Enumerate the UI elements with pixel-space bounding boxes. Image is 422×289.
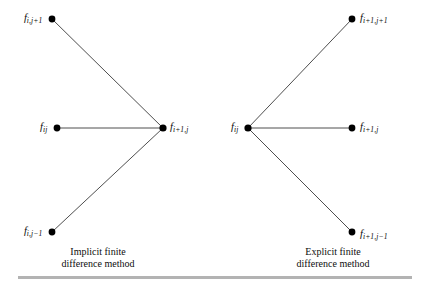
node-f-ip1-j-right [349,125,356,132]
edge-fi-jp1-to-fip1-j [52,19,163,128]
label-f-ip1-jp1: fi+1,j+1 [360,13,388,24]
label-subscript: i+1,j [363,125,379,134]
caption-implicit-method: Implicit finite difference method [48,246,148,269]
label-subscript: i,j+1 [27,16,43,25]
edge-fij-to-fip1-jp1 [248,19,352,128]
label-f-i-jp1: fi,j+1 [24,13,45,24]
caption-line-1: Explicit finite [283,246,383,258]
implicit-panel-edges [52,19,163,232]
edge-fi-jm1-to-fip1-j [52,128,163,232]
implicit-panel-nodes [49,16,167,236]
node-f-ip1-jm1 [349,229,356,236]
node-f-ip1-j [159,124,166,131]
label-subscript: i+1,j+1 [363,16,388,25]
node-f-i-jm1 [49,229,56,236]
explicit-panel-nodes [244,16,355,236]
label-f-i-jm1: fi,j−1 [24,226,45,237]
label-f-ij-right: fij [231,122,241,133]
node-f-ij-right [244,124,251,131]
label-subscript: i,j−1 [27,229,43,238]
label-f-ij-left: fij [40,122,50,133]
node-f-i-jp1 [49,16,56,23]
label-subscript: i+1,j [173,125,189,134]
explicit-panel-edges [248,19,352,232]
edge-fij-to-fip1-jm1 [248,128,352,232]
label-subscript: ij [234,125,238,134]
label-f-ip1-j-left-panel: fi+1,j [170,122,188,133]
caption-line-2: difference method [48,258,148,270]
caption-line-1: Implicit finite [48,246,148,258]
label-f-ip1-jm1: fi+1,j−1 [360,229,388,240]
label-subscript: ij [43,125,47,134]
node-f-ij [54,125,61,132]
label-subscript: i+1,j−1 [363,232,388,241]
caption-line-2: difference method [283,258,383,270]
node-f-ip1-jp1 [349,16,356,23]
caption-explicit-method: Explicit finite difference method [283,246,383,269]
label-f-ip1-j-right-panel: fi+1,j [360,122,378,133]
finite-difference-stencil-figure: fi,j+1 fij fi,j−1 fi+1,j fi+1,j+1 fij fi… [0,0,422,289]
